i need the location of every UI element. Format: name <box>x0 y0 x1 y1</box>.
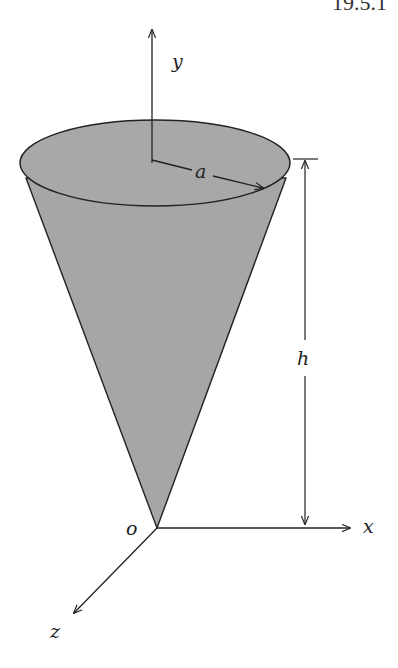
section-number: 19.5.1 <box>332 0 387 15</box>
z-axis-label: z <box>49 620 61 642</box>
cone-diagram: 19.5.1 y a h x z o <box>0 0 398 668</box>
height-label: h <box>297 347 309 369</box>
cone-top-ellipse <box>20 120 290 206</box>
z-axis <box>74 528 157 613</box>
y-axis-label: y <box>171 50 183 72</box>
x-axis-label: x <box>363 515 374 537</box>
radius-label: a <box>195 160 206 182</box>
cone-body <box>26 178 286 528</box>
origin-label: o <box>126 517 137 539</box>
